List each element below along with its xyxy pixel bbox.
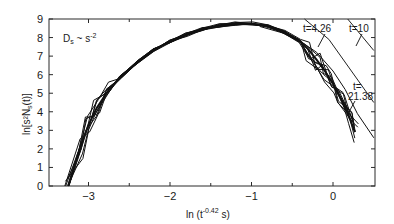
label-t-21.38-bottom: 21.38 <box>348 91 373 102</box>
x-tick-label: 0 <box>330 190 336 202</box>
leader-t10 <box>356 34 362 46</box>
y-tick-label: 7 <box>37 50 43 62</box>
collapsed-data-curves <box>65 22 374 186</box>
plot-svg: 0123456789 −3−2−10 Ds ~ s-2 t=4.26 t=10 … <box>0 0 394 224</box>
ds-scaling-label: Ds ~ s-2 <box>63 32 96 45</box>
x-axis-tick-labels: −3−2−10 <box>82 190 336 202</box>
y-tick-label: 2 <box>37 143 43 155</box>
y-tick-label: 3 <box>37 124 43 136</box>
x-axis-label: ln (t-0.42 s) <box>186 207 230 220</box>
x-axis-ticks <box>89 19 334 186</box>
x-tick-label: −2 <box>164 190 177 202</box>
y-axis-label: ln[s²Ns(t)] <box>21 93 33 135</box>
leader-t2138 <box>350 101 355 110</box>
y-axis-tick-labels: 0123456789 <box>37 13 43 192</box>
y-tick-label: 5 <box>37 87 43 99</box>
y-tick-label: 6 <box>37 69 43 81</box>
x-tick-label: −1 <box>245 190 258 202</box>
y-tick-label: 1 <box>37 161 43 173</box>
plot-frame <box>49 19 375 186</box>
y-tick-label: 9 <box>37 13 43 25</box>
leader-t426 <box>318 34 325 47</box>
y-tick-label: 0 <box>37 180 43 192</box>
scaling-plot: 0123456789 −3−2−10 Ds ~ s-2 t=4.26 t=10 … <box>0 0 394 224</box>
y-axis-ticks <box>49 19 375 186</box>
label-t-10: t=10 <box>349 23 369 34</box>
label-t-4.26: t=4.26 <box>303 23 332 34</box>
x-tick-label: −3 <box>82 190 95 202</box>
y-tick-label: 4 <box>37 106 43 118</box>
y-tick-label: 8 <box>37 32 43 44</box>
